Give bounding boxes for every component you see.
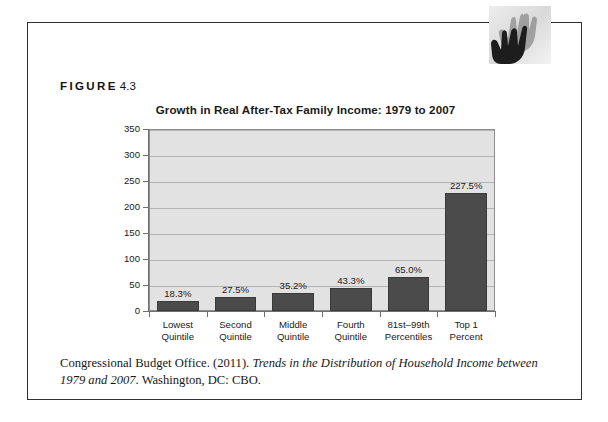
x-axis-tick: [322, 312, 323, 317]
y-axis-tick: [143, 207, 148, 208]
y-axis-tick-label: 250: [106, 175, 140, 186]
x-axis-tick: [380, 312, 381, 317]
y-axis-tick: [143, 233, 148, 234]
y-axis-tick: [143, 129, 148, 130]
bar-value-label: 227.5%: [434, 180, 498, 191]
bar: [272, 293, 314, 311]
bar: [445, 193, 487, 311]
bar-chart: 050100150200250300350LowestQuintileSecon…: [28, 23, 583, 401]
figure-box: FIGURE4.3 Growth in Real After-Tax Famil…: [27, 22, 582, 400]
bar: [330, 288, 372, 311]
y-axis-tick-label: 150: [106, 227, 140, 238]
y-axis-tick: [143, 259, 148, 260]
hands-icon: [489, 6, 551, 64]
bar: [215, 297, 257, 311]
grid-line: [150, 260, 494, 261]
x-axis-label-line: Top 1: [430, 319, 502, 331]
x-axis-tick: [437, 312, 438, 317]
y-axis-tick-label: 100: [106, 253, 140, 264]
x-axis-tick: [207, 312, 208, 317]
x-axis-category-label: Top 1Percent: [430, 319, 502, 342]
bar-value-label: 43.3%: [319, 275, 383, 286]
screenshot-page: FIGURE4.3 Growth in Real After-Tax Famil…: [0, 0, 608, 422]
bar-value-label: 65.0%: [377, 264, 441, 275]
bar-value-label: 18.3%: [146, 288, 210, 299]
y-axis-line: [148, 129, 149, 312]
bar: [388, 277, 430, 311]
grid-line: [150, 208, 494, 209]
y-axis-tick: [143, 285, 148, 286]
y-axis-tick-label: 350: [106, 123, 140, 134]
citation: Congressional Budget Office. (2011). Tre…: [60, 355, 560, 388]
bar-value-label: 27.5%: [204, 284, 268, 295]
x-axis-label-line: Percent: [430, 331, 502, 343]
bar: [157, 301, 199, 311]
grid-line: [150, 234, 494, 235]
y-axis-tick-label: 200: [106, 201, 140, 212]
grid-line: [150, 130, 494, 131]
x-axis-tick: [495, 312, 496, 317]
x-axis-tick: [149, 312, 150, 317]
y-axis-tick-label: 50: [106, 279, 140, 290]
y-axis-tick: [143, 181, 148, 182]
y-axis-tick: [143, 311, 148, 312]
citation-part1: Congressional Budget Office. (2011).: [60, 356, 252, 370]
citation-part2: . Washington, DC: CBO.: [136, 373, 261, 387]
y-axis-tick-label: 0: [106, 305, 140, 316]
y-axis-tick: [143, 155, 148, 156]
y-axis-tick-label: 300: [106, 149, 140, 160]
grid-line: [150, 156, 494, 157]
bar-value-label: 35.2%: [261, 280, 325, 291]
x-axis-tick: [264, 312, 265, 317]
